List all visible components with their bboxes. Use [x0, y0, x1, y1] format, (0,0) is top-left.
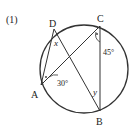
geometry-diagram: (1) D C A B x y 30° 45°: [0, 0, 135, 128]
angle-label-C: 45°: [103, 48, 114, 57]
angle-dot-C: [96, 33, 98, 35]
segment-DA: [41, 29, 54, 85]
segment-DB: [54, 29, 100, 111]
label-B: B: [96, 116, 103, 127]
angle-label-y: y: [92, 87, 97, 97]
label-D: D: [49, 18, 56, 29]
angle-label-A: 30°: [57, 79, 68, 88]
label-C: C: [97, 13, 104, 24]
label-A: A: [31, 89, 39, 100]
angle-dot-A: [45, 76, 47, 78]
angle-label-x: x: [53, 38, 58, 48]
problem-number: (1): [6, 14, 18, 26]
